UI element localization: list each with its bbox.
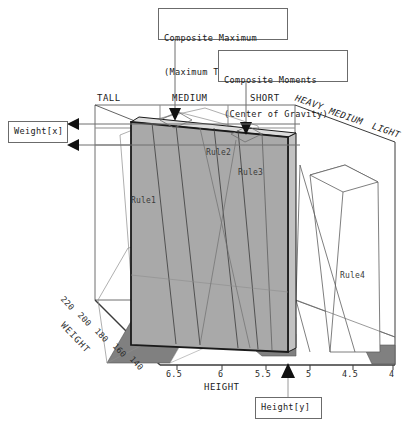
axis-ticks [177, 365, 393, 370]
callout-composite-moments-line2: (Center of Gravity) [224, 109, 343, 120]
callout-height-y: Height[y] [255, 397, 322, 419]
height-category-short: SHORT [250, 93, 280, 103]
height-tick-5: 4 [389, 369, 394, 379]
callout-composite-moments-line1: Composite Moments [224, 75, 343, 86]
composite-slab-side-face [288, 133, 296, 352]
callout-composite-maximum: Composite Maximum (Maximum Truth Value) [158, 8, 288, 40]
callout-weight-x: Weight[x] [8, 121, 68, 143]
rule-2-label: Rule2 [206, 148, 231, 157]
height-tick-0: 6.5 [166, 369, 182, 379]
callout-height-y-label: Height[y] [261, 402, 310, 413]
callout-composite-moments: Composite Moments (Center of Gravity) [218, 50, 348, 82]
callout-weight-x-label: Weight[x] [14, 126, 63, 137]
height-tick-2: 5.5 [255, 369, 271, 379]
rule-1-label: Rule1 [131, 196, 156, 205]
callout-composite-maximum-line1: Composite Maximum [164, 33, 283, 44]
height-category-tall: TALL [97, 93, 121, 103]
height-tick-4: 4.5 [342, 369, 358, 379]
height-axis-title: HEIGHT [204, 382, 240, 392]
rule-4-prism [296, 165, 395, 352]
height-tick-3: 5 [306, 369, 311, 379]
figure-canvas: Composite Maximum (Maximum Truth Value) … [0, 0, 411, 436]
rule-3-label: Rule3 [238, 168, 263, 177]
height-category-medium: MEDIUM [172, 93, 208, 103]
height-tick-1: 6 [218, 369, 223, 379]
rule-4-label: Rule4 [340, 271, 365, 280]
arrowhead-weight-upper [67, 118, 79, 130]
arrowhead-weight-lower [67, 139, 79, 151]
